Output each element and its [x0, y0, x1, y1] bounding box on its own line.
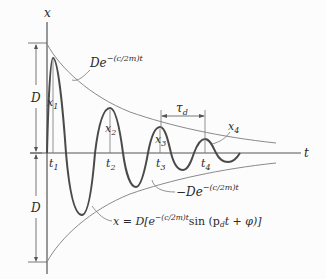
upper-envelope-label: De−(c/2m)t: [89, 54, 144, 70]
d-upper-label: D: [30, 91, 41, 105]
peak-2-x-label: x2: [105, 122, 116, 137]
x-axis-label: x: [44, 6, 51, 20]
tau-arrow-left: [161, 114, 167, 118]
t1-label: t1: [49, 157, 59, 172]
lower-envelope-label: −De−(c/2m)t: [176, 183, 240, 199]
t3-label: t3: [156, 157, 166, 172]
d-arrow-bottom: [34, 257, 38, 262]
t-axis-label: t: [304, 146, 309, 160]
d-arrow-mid-up: [34, 147, 38, 152]
peak-3-x-label: x3: [155, 133, 166, 148]
d-arrow-top: [34, 44, 38, 49]
t2-label: t2: [106, 157, 116, 172]
period-label: τd: [176, 101, 188, 117]
t4-label: t4: [201, 157, 211, 172]
peak-1-x-label: x1: [47, 96, 58, 111]
d-lower-label: D: [30, 201, 41, 215]
damped-vibration-figure: x t D D De−(c/2m)t −De−(c/2m)t x = D[e−(…: [0, 0, 326, 279]
tau-arrow-right: [199, 114, 205, 118]
peak-4-x-label: x4: [228, 120, 239, 135]
d-arrow-mid-down: [34, 154, 38, 159]
equation-label: x = D[e−(c/2m)tsin (pdt + φ)]: [113, 213, 262, 229]
upper-envelope-leader: [72, 70, 90, 80]
